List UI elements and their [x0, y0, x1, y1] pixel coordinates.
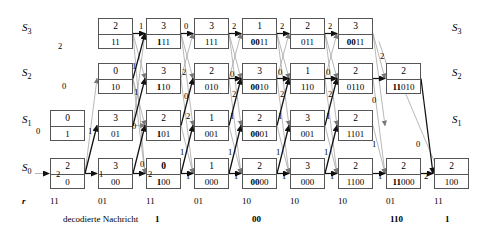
node-path: 0011	[243, 35, 276, 50]
node-path: 1	[51, 127, 84, 142]
branch-metric: 0	[36, 127, 40, 136]
node-path: 000	[291, 175, 324, 190]
branch-metric: 2	[328, 90, 332, 99]
trellis-node-s0-c2: 300	[98, 158, 133, 189]
state-label-s3: S3	[452, 21, 462, 36]
node-metric: 1	[195, 159, 228, 175]
trellis-diagram: S3S2S1S0 S3S2S1S0 2113111311110011201130…	[0, 0, 485, 240]
branch-metric: 1	[228, 148, 232, 157]
r-value-8: 01	[386, 196, 395, 206]
trellis-node-s2-c6: 1110	[290, 63, 325, 94]
node-path: 110	[147, 80, 180, 95]
node-path: 100	[435, 175, 468, 190]
branch-metric: 1	[372, 140, 376, 149]
trellis-node-s1-c1: 01	[50, 110, 85, 141]
branch-metric: 1	[330, 172, 334, 181]
branch-metric: 2	[182, 68, 186, 77]
node-path: 101	[147, 127, 180, 142]
trellis-branch	[373, 79, 385, 174]
branch-metric: 1	[234, 172, 238, 181]
trellis-node-s3-c7: 30011	[338, 18, 373, 49]
node-metric: 1	[243, 19, 276, 35]
node-path: 0000	[243, 175, 276, 190]
branch-metric: 2	[280, 22, 284, 31]
branch-metric: 0	[140, 160, 144, 169]
branch-metric: 0	[184, 22, 188, 31]
r-value-1: 11	[50, 196, 59, 206]
trellis-node-s1-c5: 20001	[242, 110, 277, 141]
node-path: 01	[99, 127, 132, 142]
state-label-s0: S0	[22, 161, 32, 176]
node-path: 001	[195, 127, 228, 142]
trellis-node-s0-c7: 21100	[338, 158, 373, 189]
branch-metric: 1	[180, 148, 184, 157]
node-metric: 0	[99, 64, 132, 80]
branch-metric: 1	[276, 148, 280, 157]
trellis-node-s2-c2: 010	[98, 63, 133, 94]
branch-metric: 0	[132, 122, 136, 131]
branch-metric: 1	[99, 170, 103, 179]
decoded-segment-3: 110	[390, 214, 403, 224]
r-row-label: r	[22, 196, 26, 206]
node-path: 111	[147, 35, 180, 50]
trellis-node-s2-c7: 20110	[338, 63, 373, 94]
branch-metric: 2	[232, 90, 236, 99]
branch-metric: 1	[186, 172, 190, 181]
decoded-caption: decodierte Nachricht	[63, 214, 138, 224]
branch-metric: 2	[56, 170, 60, 179]
branch-metric: 0	[326, 68, 330, 77]
node-metric: 3	[147, 64, 180, 80]
r-value-9: 11	[434, 196, 443, 206]
trellis-node-s1-c7: 21101	[338, 110, 373, 141]
branch-metric: 1	[278, 112, 282, 121]
state-label-s1: S1	[452, 113, 462, 128]
branch-metric: 1	[230, 112, 234, 121]
decoded-segment-4: 1	[445, 214, 450, 224]
branch-metric: 2	[232, 22, 236, 31]
node-metric: 2	[195, 64, 228, 80]
branch-metric: 2	[380, 52, 384, 61]
trellis-node-s2-c3: 3110	[146, 63, 181, 94]
node-path: 11010	[387, 80, 420, 95]
trellis-node-s1-c3: 2101	[146, 110, 181, 141]
branch-metric: 2	[148, 170, 152, 179]
trellis-node-s0-c5: 20000	[242, 158, 277, 189]
trellis-node-s0-c9: 2100	[434, 158, 469, 189]
node-metric: 2	[387, 159, 420, 175]
branch-metric: 1	[378, 172, 382, 181]
decoded-segment-1: 1	[155, 214, 160, 224]
trellis-node-s1-c6: 3001	[290, 110, 325, 141]
branch-metric: 1	[88, 127, 92, 136]
node-metric: 3	[339, 19, 372, 35]
trellis-node-s0-c8: 211000	[386, 158, 421, 189]
node-path: 011	[291, 35, 324, 50]
trellis-node-s2-c4: 2010	[194, 63, 229, 94]
node-metric: 2	[147, 111, 180, 127]
state-label-s1: S1	[22, 113, 32, 128]
branch-metric: 1	[134, 88, 138, 97]
node-metric: 1	[291, 64, 324, 80]
node-metric: 2	[339, 64, 372, 80]
node-metric: 2	[99, 19, 132, 35]
node-metric: 2	[243, 159, 276, 175]
node-metric: 2	[291, 19, 324, 35]
branch-metric: 2	[186, 112, 190, 121]
node-path: 0001	[243, 127, 276, 142]
trellis-branch	[373, 126, 385, 174]
r-value-2: 01	[98, 196, 107, 206]
decoded-segment-2: 00	[252, 214, 261, 224]
trellis-node-s1-c4: 1001	[194, 110, 229, 141]
node-path: 11000	[387, 175, 420, 190]
node-path: 11	[99, 35, 132, 50]
node-metric: 0	[51, 111, 84, 127]
trellis-node-s1-c2: 301	[98, 110, 133, 141]
r-value-3: 11	[146, 196, 155, 206]
node-metric: 3	[99, 159, 132, 175]
r-value-4: 01	[194, 196, 203, 206]
node-metric: 3	[291, 159, 324, 175]
branch-metric: 0	[184, 92, 188, 101]
branch-metric: 1	[139, 22, 143, 31]
branch-metric: 1	[326, 112, 330, 121]
trellis-node-s2-c8: 211010	[386, 63, 421, 94]
branch-metric: 2	[58, 42, 62, 51]
